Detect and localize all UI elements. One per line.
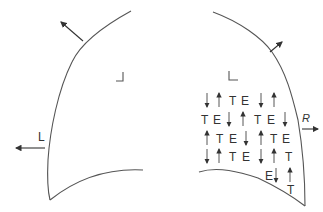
grid-letter: T (285, 150, 293, 164)
grid-letter: T (229, 94, 237, 108)
grid-letter: E (213, 113, 221, 127)
grid-letter: T (254, 113, 262, 127)
left-lobe-outline (48, 11, 131, 200)
grid-letter: T (201, 113, 209, 127)
grid-letter: E (265, 169, 273, 183)
left-lobe: L (16, 11, 143, 200)
lung-diagram: L R TETETETETETETET (0, 0, 323, 212)
grid-letter: E (242, 150, 250, 164)
left-lobe-base (50, 170, 143, 200)
grid-letter: T (229, 150, 237, 164)
corner-mark-right-icon (229, 71, 238, 80)
grid-letter: T (287, 183, 295, 197)
right-lobe: R TETETETETETETET (199, 12, 318, 206)
grid-letter: T (216, 132, 224, 146)
outward-arrow-left-icon (61, 22, 83, 41)
grid-letter: E (241, 94, 249, 108)
grid-letter: E (267, 113, 275, 127)
right-lobe-outline (213, 12, 305, 206)
grid-letter: E (282, 132, 290, 146)
outward-arrow-right-icon (270, 42, 282, 52)
grid-letter: T (270, 132, 278, 146)
left-label: L (38, 130, 45, 144)
corner-mark-left-icon (116, 72, 123, 81)
tension-expansion-grid: TETETETETETETET (201, 93, 295, 197)
grid-letter: E (229, 132, 237, 146)
right-label: R (302, 112, 310, 124)
